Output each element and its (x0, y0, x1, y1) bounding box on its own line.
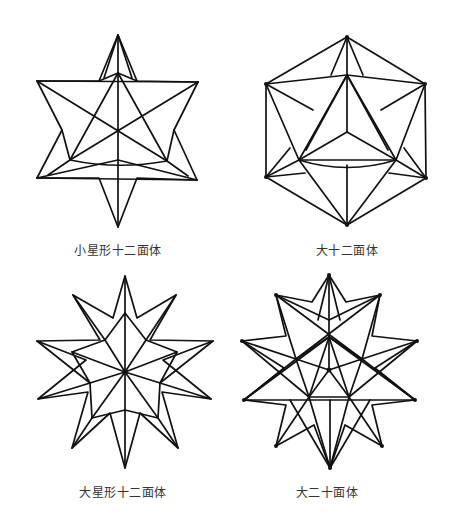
great-stellated-dodecahedron-figure (37, 276, 213, 468)
caption-small-stellated-dodecahedron: 小星形十二面体 (74, 241, 162, 258)
great-icosahedron-figure (240, 273, 419, 470)
small-stellated-dodecahedron-figure (37, 35, 198, 227)
caption-great-dodecahedron: 大十二面体 (316, 241, 379, 258)
caption-great-icosahedron: 大二十面体 (296, 483, 359, 500)
polyhedra-diagram (0, 0, 456, 527)
caption-great-stellated-dodecahedron: 大星形十二面体 (79, 483, 167, 500)
great-dodecahedron-figure (264, 35, 428, 227)
